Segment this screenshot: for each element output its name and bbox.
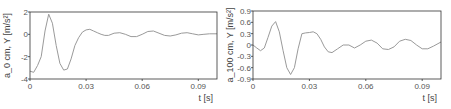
- x-axis-label: t [s]: [198, 93, 213, 103]
- y-axis-label: a_100 cm, Y [m/s²]: [225, 7, 235, 82]
- x-tick-label: 0.09: [191, 82, 207, 91]
- y-tick-label: 0: [247, 41, 252, 50]
- y-tick-label: 0: [24, 30, 29, 39]
- y-tick-label: -0.3: [237, 52, 251, 61]
- y-tick-label: 0.9: [240, 7, 252, 16]
- data-line: [253, 22, 441, 75]
- chart-a0cm: 20-2-400.030.060.09t [s]a_0 cm, Y [m/s²]: [2, 8, 217, 103]
- chart-a100cm: 0.90.60.30-0.3-0.6-0.900.030.060.09t [s]…: [225, 7, 441, 103]
- y-tick-label: 0.3: [240, 30, 252, 39]
- y-tick-label: -0.6: [237, 64, 251, 73]
- x-axis-label: t [s]: [422, 93, 437, 103]
- y-axis-label: a_0 cm, Y [m/s²]: [2, 13, 12, 78]
- y-tick-label: -2: [21, 53, 29, 62]
- y-tick-label: -0.9: [237, 75, 251, 84]
- x-tick-label: 0: [251, 82, 256, 91]
- x-tick-label: 0.09: [414, 82, 430, 91]
- x-tick-label: 0.06: [358, 82, 374, 91]
- x-tick-label: 0: [28, 82, 33, 91]
- y-tick-label: 0.6: [240, 18, 252, 27]
- y-tick-label: 2: [24, 8, 29, 17]
- data-line: [30, 14, 217, 72]
- x-tick-label: 0.03: [302, 82, 318, 91]
- plot-frame: [30, 12, 217, 79]
- charts-canvas: 20-2-400.030.060.09t [s]a_0 cm, Y [m/s²]…: [0, 0, 451, 109]
- x-tick-label: 0.06: [134, 82, 150, 91]
- x-tick-label: 0.03: [78, 82, 94, 91]
